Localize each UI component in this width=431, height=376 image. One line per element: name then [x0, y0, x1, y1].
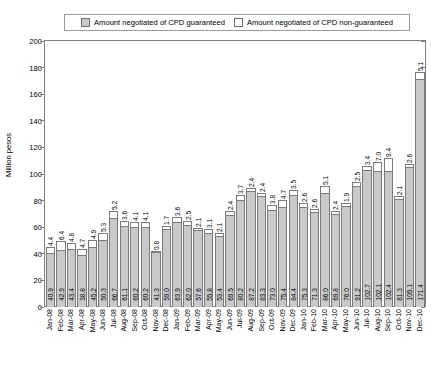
bar-segment-guaranteed[interactable]: 41.3	[151, 252, 160, 307]
x-axis-label: Mar-10	[320, 309, 331, 373]
bar-segment-guaranteed[interactable]: 69.5	[225, 215, 234, 307]
bar-segment-guaranteed[interactable]: 50.3	[98, 240, 107, 307]
bar-group[interactable]: 3.661.1	[119, 41, 130, 307]
bar-segment-guaranteed[interactable]: 80.2	[236, 200, 245, 307]
bar-segment-guaranteed[interactable]: 45.2	[88, 247, 97, 307]
bar-group[interactable]: 2.153.4	[214, 41, 225, 307]
bar-segment-guaranteed[interactable]: 43.4	[67, 249, 76, 307]
bar-value-label-non-guaranteed: 4.7	[78, 239, 85, 248]
bar-segment-guaranteed[interactable]: 71.3	[310, 212, 319, 307]
bar-segment-guaranteed[interactable]: 40.9	[46, 253, 55, 307]
bar-group[interactable]: 2.562.0	[182, 41, 193, 307]
x-axis-label: May-10	[341, 309, 352, 373]
bar-group[interactable]: 5.266.7	[108, 41, 119, 307]
bar-group[interactable]: 4.843.4	[66, 41, 77, 307]
bar-segment-guaranteed[interactable]: 42.9	[56, 250, 65, 307]
bar-group[interactable]: 4.945.2	[87, 41, 98, 307]
x-axis-labels: Jan-08Feb-08Mar-08Apr-08May-08Jun-08Jul-…	[45, 309, 425, 373]
bar-segment-guaranteed[interactable]: 102.4	[384, 171, 393, 307]
bar-group[interactable]: 2.675.3	[299, 41, 310, 307]
bar-segment-guaranteed[interactable]: 102.7	[362, 170, 371, 307]
bar-segment-non-guaranteed[interactable]: 5.3	[98, 233, 107, 240]
bar-segment-guaranteed[interactable]: 53.4	[215, 236, 224, 307]
bar-segment-guaranteed[interactable]: 76.0	[341, 206, 350, 307]
bar-group[interactable]: 3.584.4	[288, 41, 299, 307]
bar-group[interactable]: 4.160.2	[130, 41, 141, 307]
bar-segment-non-guaranteed[interactable]: 5.2	[109, 211, 118, 218]
x-axis-label-text: Sep-10	[383, 309, 393, 332]
bar-group[interactable]: 2.671.3	[309, 41, 320, 307]
bar-group[interactable]: 4.160.2	[140, 41, 151, 307]
bar-segment-guaranteed[interactable]: 87.2	[246, 191, 255, 307]
bar-value-label-non-guaranteed: 2.5	[184, 211, 191, 220]
bar-value-label-non-guaranteed: 3.6	[174, 207, 181, 216]
bar-segment-guaranteed[interactable]: 86.0	[320, 193, 329, 307]
bar-segment-guaranteed[interactable]: 61.1	[120, 226, 129, 307]
bar-group[interactable]: 0.841.3	[151, 41, 162, 307]
bar-segment-non-guaranteed[interactable]: 5.1	[320, 186, 329, 193]
bar-segment-guaranteed[interactable]: 69.8	[331, 214, 340, 307]
bar-segment-non-guaranteed[interactable]: 5.1	[415, 72, 424, 79]
bar-group[interactable]: 1.976.0	[341, 41, 352, 307]
bar-group[interactable]: 4.440.9	[45, 41, 56, 307]
bar-segment-guaranteed[interactable]: 83.3	[257, 196, 266, 307]
bar-segment-guaranteed[interactable]: 75.3	[299, 207, 308, 307]
bar-group[interactable]: 4.775.4	[277, 41, 288, 307]
bar-group[interactable]: 1.759.0	[161, 41, 172, 307]
bar-segment-guaranteed[interactable]: 102.1	[373, 171, 382, 307]
bar-group[interactable]: 2.469.5	[225, 41, 236, 307]
bar-segment-non-guaranteed[interactable]: 6.4	[56, 241, 65, 250]
bar-group[interactable]: 9.4102.4	[383, 41, 394, 307]
bar-segment-guaranteed[interactable]: 105.1	[405, 167, 414, 307]
bar-segment-non-guaranteed[interactable]: 7.0	[373, 162, 382, 171]
bar-segment-guaranteed[interactable]: 75.4	[278, 207, 287, 307]
bar-group[interactable]: 7.0102.1	[372, 41, 383, 307]
bar-segment-guaranteed[interactable]: 63.9	[172, 222, 181, 307]
bar-group[interactable]: 3.780.2	[235, 41, 246, 307]
bar-segment-guaranteed[interactable]: 60.2	[130, 227, 139, 307]
bar-segment-non-guaranteed[interactable]: 9.4	[384, 158, 393, 171]
bar-segment-guaranteed[interactable]: 84.4	[289, 195, 298, 307]
bar-group[interactable]: 3.155.8	[203, 41, 214, 307]
bar-segment-guaranteed[interactable]: 91.2	[352, 186, 361, 307]
bar-group[interactable]: 2.181.3	[394, 41, 405, 307]
bar-group[interactable]: 3.4102.7	[362, 41, 373, 307]
bar-group[interactable]: 5.350.3	[98, 41, 109, 307]
bar-group[interactable]: 6.442.9	[56, 41, 67, 307]
bar-value-label-guaranteed: 84.4	[290, 288, 297, 301]
x-axis-label: Mar-08	[66, 309, 77, 373]
x-axis-label-text: Feb-08	[56, 309, 66, 331]
bar-segment-guaranteed[interactable]: 57.6	[193, 230, 202, 307]
bar-value-label-guaranteed: 42.9	[57, 288, 64, 301]
bar-value-label-guaranteed: 41.3	[152, 288, 159, 301]
bar-segment-guaranteed[interactable]: 38.8	[77, 255, 86, 307]
x-axis-label-text: Aug-10	[373, 309, 383, 332]
bar-group[interactable]: 2.483.3	[256, 41, 267, 307]
bar-segment-guaranteed[interactable]: 60.2	[141, 227, 150, 307]
bar-segment-guaranteed[interactable]: 66.7	[109, 218, 118, 307]
bar-segment-guaranteed[interactable]: 55.8	[204, 233, 213, 307]
y-axis-tick-mark	[40, 200, 44, 201]
bar-value-label-non-guaranteed: 3.6	[121, 211, 128, 220]
bar-group[interactable]: 5.1171.4	[415, 41, 426, 307]
bar-group[interactable]: 2.591.2	[351, 41, 362, 307]
bar-segment-guaranteed[interactable]: 73.0	[267, 210, 276, 307]
bar-group[interactable]: 2.157.6	[193, 41, 204, 307]
bar-group[interactable]: 3.663.9	[172, 41, 183, 307]
bar-value-label-non-guaranteed: 4.4	[47, 237, 54, 246]
bar-value-label-non-guaranteed: 4.9	[89, 230, 96, 239]
bar-group[interactable]: 5.186.0	[320, 41, 331, 307]
bar-segment-guaranteed[interactable]: 59.0	[162, 229, 171, 307]
x-axis-label: Jan-10	[299, 309, 310, 373]
bar-group[interactable]: 2.487.2	[246, 41, 257, 307]
bar-segment-guaranteed[interactable]: 171.4	[415, 79, 424, 307]
bar-group[interactable]: 2.469.8	[330, 41, 341, 307]
bar-segment-guaranteed[interactable]: 62.0	[183, 225, 192, 307]
bar-segment-guaranteed[interactable]: 81.3	[394, 199, 403, 307]
x-axis-label: Nov-09	[277, 309, 288, 373]
x-axis-label-text: Oct-10	[394, 309, 404, 330]
bar-group[interactable]: 4.738.8	[77, 41, 88, 307]
bar-group[interactable]: 3.873.0	[267, 41, 278, 307]
bar-value-label-non-guaranteed: 2.1	[195, 217, 202, 226]
bar-group[interactable]: 2.6105.1	[404, 41, 415, 307]
